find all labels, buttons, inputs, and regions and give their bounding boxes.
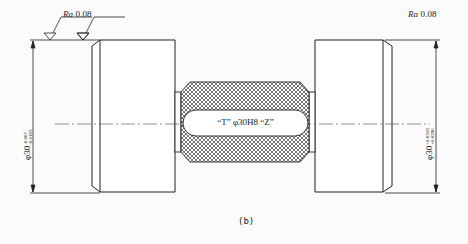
dimension-base: φ30 xyxy=(22,146,32,160)
roughness-symbol-right xyxy=(77,17,125,40)
roughness-value: 0.08 xyxy=(76,9,92,19)
right-gauge-body xyxy=(315,40,392,192)
dimension-label-left: φ30-0.007-0.0103 xyxy=(22,129,33,160)
roughness-symbol-left xyxy=(44,17,92,40)
dimension-line-right xyxy=(434,41,438,192)
dimension-line-left xyxy=(31,41,35,192)
roughness-label-right: Ra 0.08 xyxy=(408,9,437,19)
roughness-prefix: Ra xyxy=(63,9,73,19)
left-gauge-body xyxy=(92,40,175,192)
gauge-marking-label: “T” φ30H8 “Z” xyxy=(183,117,308,127)
figure-caption: (b) xyxy=(238,216,254,226)
roughness-value: 0.08 xyxy=(421,9,437,19)
dimension-label-right: φ30+0.0318+0.0286 xyxy=(424,128,435,160)
dimension-lower-tolerance: +0.0286 xyxy=(430,128,435,145)
dimension-base: φ30 xyxy=(424,146,434,160)
roughness-prefix: Ra xyxy=(408,9,418,19)
roughness-label-left: Ra 0.08 xyxy=(63,9,92,19)
dimension-lower-tolerance: -0.0103 xyxy=(28,129,33,144)
